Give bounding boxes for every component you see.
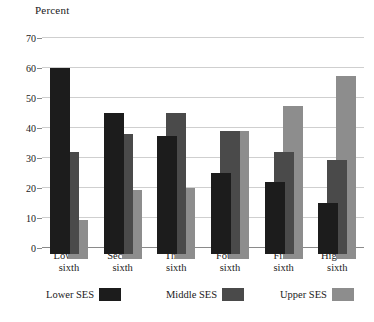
bar-chart: Percent 010203040506070 LowestsixthSecon… [0,0,374,322]
x-tick-label-line: sixth [42,262,96,274]
legend-item[interactable]: Lower SES [46,288,121,301]
x-tick-label-line: sixth [96,262,150,274]
x-tick-label-line: sixth [203,262,257,274]
y-tick-label-10: 10 [10,213,36,224]
y-tick-label-20: 20 [10,183,36,194]
bar [104,113,124,254]
y-tick-mark-40 [37,128,42,129]
y-tick-label-40: 40 [10,123,36,134]
y-tick-mark-20 [37,188,42,189]
y-tick-mark-10 [37,218,42,219]
y-tick-label-0: 0 [10,243,36,254]
legend-swatch-icon [222,288,244,301]
legend-label: Middle SES [166,289,217,300]
y-axis-tick-labels: 010203040506070 [10,38,36,248]
bar-group [50,38,104,248]
y-tick-mark-0 [37,248,42,249]
y-tick-mark-60 [37,68,42,69]
bar [157,136,177,255]
legend-item[interactable]: Upper SES [280,288,354,301]
bar [265,182,285,254]
legend-swatch-icon [99,288,121,301]
y-tick-mark-50 [37,98,42,99]
bar-group [318,38,372,248]
bar [211,173,231,254]
bar-group [265,38,319,248]
chart-legend: Lower SESMiddle SESUpper SES [0,288,374,310]
y-tick-mark-30 [37,158,42,159]
x-axis-tick-labels: LowestsixthSecondsixthThirdsixthFourthsi… [42,250,364,284]
x-tick-label-line: sixth [257,262,311,274]
y-tick-label-60: 60 [10,63,36,74]
legend-label: Upper SES [280,289,327,300]
legend-label: Lower SES [46,289,94,300]
legend-swatch-icon [332,288,354,301]
bar [318,203,338,254]
bar [50,68,70,254]
legend-item[interactable]: Middle SES [166,288,244,301]
x-tick-label-line: sixth [310,262,364,274]
plot-area [42,38,364,248]
bar-group [157,38,211,248]
y-tick-label-50: 50 [10,93,36,104]
bar-group [104,38,158,248]
y-tick-label-30: 30 [10,153,36,164]
y-tick-mark-70 [37,38,42,39]
bar-group [211,38,265,248]
x-tick-label-line: sixth [149,262,203,274]
y-axis-title: Percent [35,4,69,16]
y-tick-label-70: 70 [10,33,36,44]
